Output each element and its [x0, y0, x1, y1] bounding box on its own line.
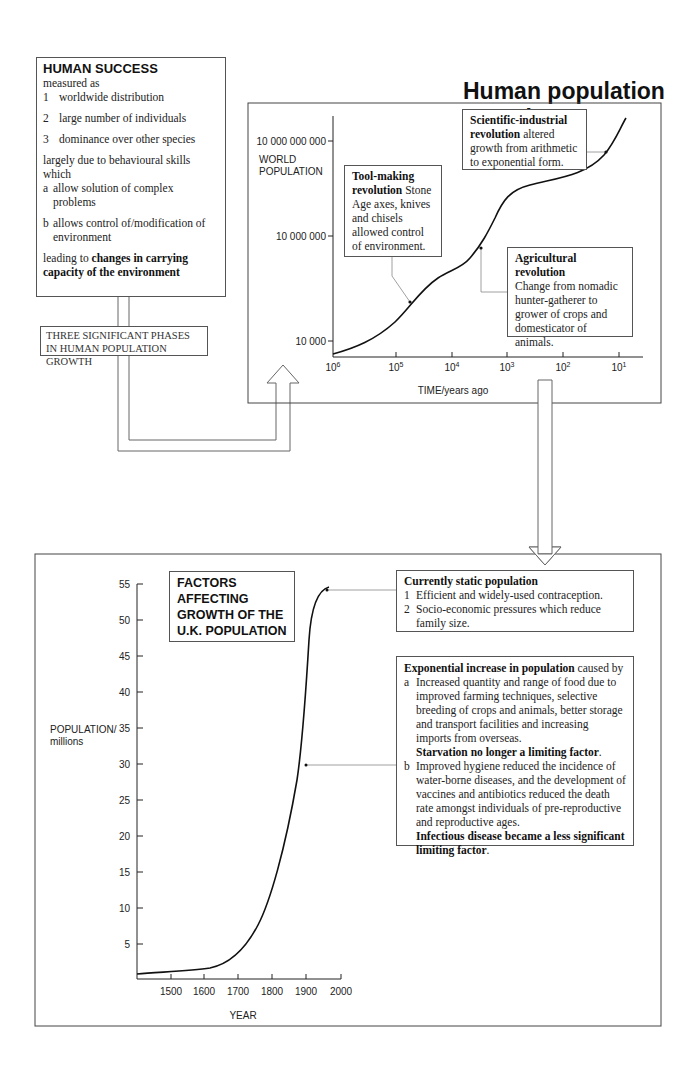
skill-item: aallow solution of complex problems [43, 181, 219, 209]
agri-leader-line [481, 248, 507, 292]
human-success-heading: HUMAN SUCCESS [43, 61, 219, 76]
svg-text:104: 104 [444, 361, 459, 373]
static-item: 2Socio-economic pressures which reduce f… [404, 602, 626, 630]
uk-xticks: 1500 1600 1700 1800 1900 2000 [160, 986, 353, 997]
uk-yticks: 55 50 45 40 35 30 25 20 15 10 5 [119, 579, 131, 950]
measure-item: 1worldwide distribution [43, 90, 219, 104]
svg-text:40: 40 [119, 687, 131, 698]
world-ytick-1: 10 000 000 000 [256, 136, 326, 147]
svg-text:1700: 1700 [227, 986, 250, 997]
svg-text:106: 106 [325, 361, 340, 373]
flow-arrow-down [529, 380, 561, 565]
static-population-box: Currently static population 1Efficient a… [396, 570, 634, 632]
measure-item: 2large number of individuals [43, 111, 219, 125]
due-to-text: largely due to behavioural skills which [43, 153, 219, 181]
svg-text:25: 25 [119, 795, 131, 806]
world-y-label: WORLD POPULATION [259, 154, 329, 178]
svg-text:2000: 2000 [330, 986, 353, 997]
svg-text:15: 15 [119, 867, 131, 878]
three-phases-label: THREE SIGNIFICANT PHASES IN HUMAN POPULA… [40, 326, 208, 356]
svg-text:105: 105 [388, 361, 403, 373]
world-x-label: TIME/years ago [418, 385, 489, 396]
svg-text:30: 30 [119, 759, 131, 770]
svg-text:103: 103 [499, 361, 514, 373]
svg-text:102: 102 [555, 361, 570, 373]
svg-text:10: 10 [119, 903, 131, 914]
uk-y-label-2: millions [50, 736, 83, 747]
agricultural-annotation: Agricultural revolution Change from noma… [507, 247, 633, 337]
exponential-increase-box: Exponential increase in population cause… [396, 656, 634, 846]
svg-text:1800: 1800 [261, 986, 284, 997]
uk-chart-title: FACTORS AFFECTING GROWTH OF THE U.K. POP… [169, 571, 295, 642]
flow-arrow-left [118, 297, 299, 451]
exp-heading: Exponential increase in population cause… [404, 661, 626, 675]
measure-item: 3dominance over other species [43, 132, 219, 146]
world-ytick-3: 10 000 [295, 336, 326, 347]
uk-x-label: YEAR [229, 1010, 256, 1021]
tool-making-annotation: Tool-making revolution Stone Age axes, k… [344, 165, 442, 257]
world-x-axis [333, 352, 643, 357]
leading-to-text: leading to changes in carrying capacity … [43, 251, 219, 279]
svg-text:5: 5 [124, 939, 130, 950]
measured-as-label: measured as [43, 76, 219, 90]
human-success-box: HUMAN SUCCESS measured as 1worldwide dis… [36, 57, 226, 297]
svg-text:1900: 1900 [295, 986, 318, 997]
exp-item: b Improved hygiene reduced the incidence… [404, 759, 626, 857]
world-y-axis [328, 116, 333, 357]
static-item: 1Efficient and widely-used contraception… [404, 588, 626, 602]
scientific-industrial-annotation: Scientific-industrial revolution altered… [462, 109, 587, 170]
svg-text:1600: 1600 [193, 986, 216, 997]
svg-text:50: 50 [119, 615, 131, 626]
svg-text:35: 35 [119, 723, 131, 734]
uk-y-axis [137, 584, 143, 979]
svg-text:45: 45 [119, 651, 131, 662]
uk-y-label-1: POPULATION/ [50, 724, 117, 735]
world-ytick-2: 10 000 000 [276, 231, 326, 242]
exp-item: a Increased quantity and range of food d… [404, 675, 626, 759]
skill-item: ballows control of/modification of envir… [43, 216, 219, 244]
svg-text:101: 101 [611, 361, 626, 373]
svg-text:55: 55 [119, 579, 131, 590]
svg-text:1500: 1500 [160, 986, 183, 997]
world-xticks: 106 105 104 103 102 101 [325, 361, 626, 373]
svg-text:20: 20 [119, 831, 131, 842]
static-heading: Currently static population [404, 574, 626, 588]
uk-population-curve [137, 587, 329, 974]
tool-leader-line [392, 256, 410, 302]
uk-x-axis [137, 974, 341, 979]
